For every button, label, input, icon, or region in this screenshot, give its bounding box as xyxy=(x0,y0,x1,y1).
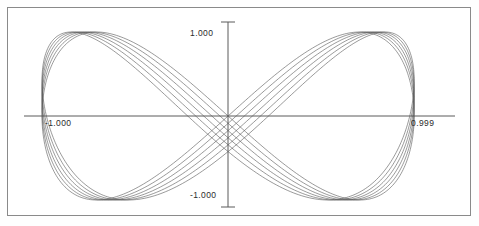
plot-window: 1.000 -1.000 -1.000 0.999 xyxy=(0,0,479,226)
axis-label-right: 0.999 xyxy=(411,118,434,128)
plot-canvas xyxy=(0,0,479,226)
axis-label-left: -1.000 xyxy=(45,118,72,128)
axis-label-top: 1.000 xyxy=(190,28,213,38)
plot-svg xyxy=(0,0,479,226)
axis-label-bottom: -1.000 xyxy=(190,190,217,200)
